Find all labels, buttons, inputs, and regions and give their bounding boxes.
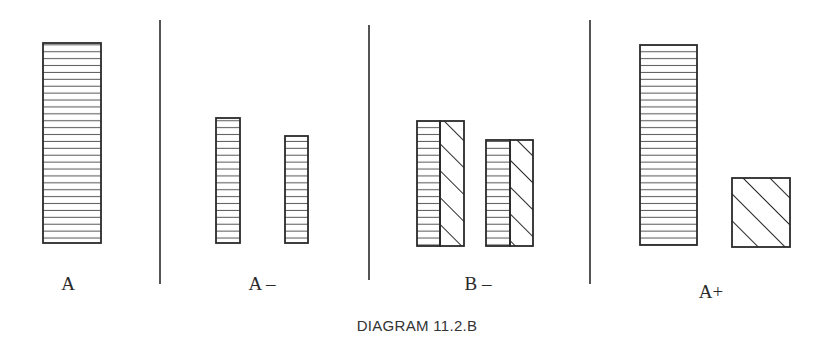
diagram-caption: DIAGRAM 11.2.B: [357, 317, 478, 334]
diagram-canvas: AA –B –A+ DIAGRAM 11.2.B: [0, 0, 834, 349]
panel-label: A –: [249, 273, 276, 294]
panel-label: B –: [465, 273, 492, 294]
panel-label: A+: [699, 281, 723, 302]
bars-layer: [43, 43, 790, 247]
bar-horizontal-hatched: [417, 121, 440, 246]
panel-label: A: [61, 273, 75, 294]
bar-diagonal-hatched: [440, 121, 464, 246]
bar-horizontal-hatched: [486, 140, 510, 246]
bar-horizontal-hatched: [43, 43, 101, 243]
bar-horizontal-hatched: [640, 45, 697, 245]
bar-horizontal-hatched: [216, 118, 240, 243]
bar-diagonal-hatched: [510, 140, 533, 246]
bar-horizontal-hatched: [285, 136, 308, 243]
bar-diagonal-hatched: [732, 178, 790, 247]
